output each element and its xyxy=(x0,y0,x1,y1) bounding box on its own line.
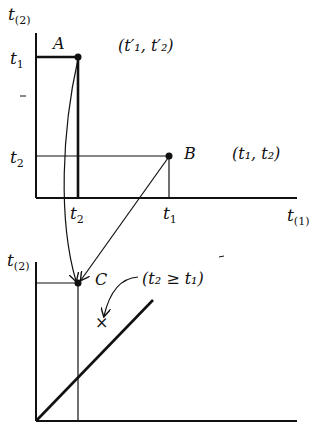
point-B-label: B xyxy=(184,146,196,162)
stray-dash-2 xyxy=(219,256,224,257)
point-B-coords: (t₁, t₂) xyxy=(232,146,280,162)
label-main: t xyxy=(287,205,294,225)
label-main: t xyxy=(7,250,14,270)
label-sub: (1) xyxy=(294,215,310,228)
label-main: t xyxy=(10,147,17,167)
label-sub: (2) xyxy=(15,14,31,27)
point-C-label: C xyxy=(95,272,107,288)
point-C-dot xyxy=(75,280,82,287)
arrow-A-to-C xyxy=(64,59,78,281)
label-sub: (2) xyxy=(14,260,30,273)
arrow-B-to-C xyxy=(81,158,168,280)
x-marker: × xyxy=(95,315,108,331)
label-main: t xyxy=(163,203,170,223)
top-panel xyxy=(20,33,297,198)
point-A-label: A xyxy=(53,36,65,52)
x-tick-t1: t1 xyxy=(163,205,177,225)
arrow-note-to-marker xyxy=(104,277,138,316)
top-y-axis-label: t(2) xyxy=(8,6,30,26)
top-x-axis-label: t(1) xyxy=(287,207,309,227)
label-main: t xyxy=(10,48,17,68)
label-sub: 1 xyxy=(170,213,177,226)
label-main: t xyxy=(8,4,15,24)
x-tick-t2: t2 xyxy=(70,205,84,225)
diagram-canvas xyxy=(0,0,317,423)
label-sub: 1 xyxy=(17,58,24,71)
region-note: (t₂ ≥ t₁) xyxy=(142,271,204,287)
label-main: t xyxy=(70,203,77,223)
label-sub: 2 xyxy=(17,157,24,170)
bottom-y-axis-label: t(2) xyxy=(7,252,29,272)
point-A-coords: (t′₁, t′₂) xyxy=(118,38,174,54)
y-tick-t2: t2 xyxy=(10,149,24,169)
y-tick-t1: t1 xyxy=(10,50,24,70)
point-B-dot xyxy=(166,153,173,160)
order-statistics-diagram: t(2) t1 t2 t2 t1 t(1) A (t′₁, t′₂) B (t₁… xyxy=(0,0,317,423)
label-sub: 2 xyxy=(77,213,84,226)
